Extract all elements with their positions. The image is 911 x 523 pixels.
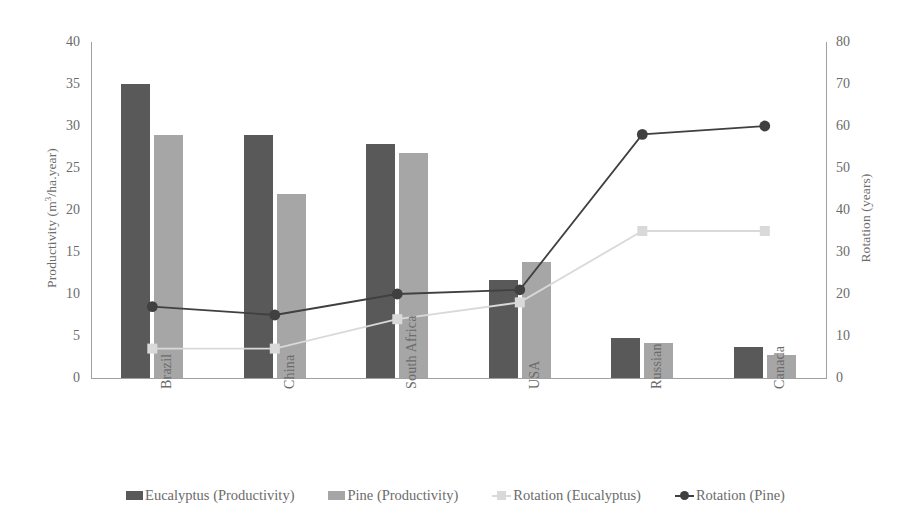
legend-square-marker [497,491,506,500]
y-axis-left-tick-40: 40 [50,35,80,49]
y-axis-left-tick-20: 20 [50,203,80,217]
x-axis-line [91,378,827,379]
marker-usa-rotation-pine: Rotation (Pine) — USA: 21 years [514,284,525,295]
legend-item-label: Eucalyptus (Productivity) [145,487,294,504]
y-axis-right-tick-40: 40 [836,203,866,217]
legend-item-rotation-pine[interactable]: Rotation (Pine) [675,487,785,504]
square-swatch-icon [328,491,345,500]
square-swatch-icon [126,491,143,500]
marker-china-rotation-eucalyptus: Rotation (Eucalyptus) — China: 7 years [270,344,280,354]
y-axis-left-tick-10: 10 [50,287,80,301]
x-axis-label-china: China [282,355,298,389]
y-axis-left-title: Productivity (m3/ha.year) [44,68,60,368]
y-axis-left-tick-35: 35 [50,77,80,91]
marker-russian-rotation-eucalyptus: Rotation (Eucalyptus) — Russian: 35 year… [637,226,647,236]
chart-figure: Productivity (m3/ha.year) Rotation (year… [0,0,911,523]
x-axis-label-brazil: Brazil [159,354,175,389]
marker-china-rotation-pine: Rotation (Pine) — China: 15 years [269,310,280,321]
marker-south-africa-rotation-eucalyptus: Rotation (Eucalyptus) — South Africa: 14… [392,314,402,324]
y-axis-right-tick-10: 10 [836,329,866,343]
line-series-overlay: Rotation (Eucalyptus) — Brazil: 7 yearsR… [91,42,826,378]
line-circle-marker-icon [675,491,694,501]
legend-item-label: Rotation (Eucalyptus) [513,487,641,504]
x-axis-label-usa: USA [527,360,543,389]
marker-canada-rotation-eucalyptus: Rotation (Eucalyptus) — Canada: 35 years [760,226,770,236]
y-axis-right-tick-50: 50 [836,161,866,175]
y-axis-right-tick-30: 30 [836,245,866,259]
line-rotation-pine [152,126,765,315]
marker-usa-rotation-eucalyptus: Rotation (Eucalyptus) — USA: 18 years [515,297,525,307]
y-axis-left-tick-30: 30 [50,119,80,133]
y-axis-right-line [826,42,827,379]
x-axis-label-canada: Canada [772,346,788,389]
line-rotation-eucalyptus [152,231,765,349]
y-axis-right-tick-20: 20 [836,287,866,301]
y-axis-right-title: Rotation (years) [858,68,874,368]
y-axis-left-tick-25: 25 [50,161,80,175]
marker-canada-rotation-pine: Rotation (Pine) — Canada: 60 years [759,121,770,132]
legend-circle-marker [680,491,689,500]
y-axis-right-tick-70: 70 [836,77,866,91]
marker-brazil-rotation-pine: Rotation (Pine) — Brazil: 17 years [147,301,158,312]
legend-item-rotation-eucalyptus[interactable]: Rotation (Eucalyptus) [492,487,641,504]
x-axis-label-russian: Russian [649,343,665,389]
y-axis-left-tick-15: 15 [50,245,80,259]
x-axis-label-south-africa: South Africa [404,315,420,389]
y-axis-left-tick-0: 0 [50,371,80,385]
legend-item-eucalyptus-productivity[interactable]: Eucalyptus (Productivity) [126,487,294,504]
chart-legend: Eucalyptus (Productivity)Pine (Productiv… [0,487,911,504]
legend-item-label: Pine (Productivity) [347,487,458,504]
marker-russian-rotation-pine: Rotation (Pine) — Russian: 58 years [637,129,648,140]
line-square-marker-icon [492,491,511,501]
y-axis-left-tick-5: 5 [50,329,80,343]
marker-brazil-rotation-eucalyptus: Rotation (Eucalyptus) — Brazil: 7 years [147,344,157,354]
legend-item-pine-productivity[interactable]: Pine (Productivity) [328,487,458,504]
y-axis-right-tick-60: 60 [836,119,866,133]
y-axis-right-tick-80: 80 [836,35,866,49]
legend-item-label: Rotation (Pine) [696,487,785,504]
y-axis-right-tick-0: 0 [836,371,866,385]
marker-south-africa-rotation-pine: Rotation (Pine) — South Africa: 20 years [392,289,403,300]
y-axis-left-title-exponent: 3 [43,197,53,202]
